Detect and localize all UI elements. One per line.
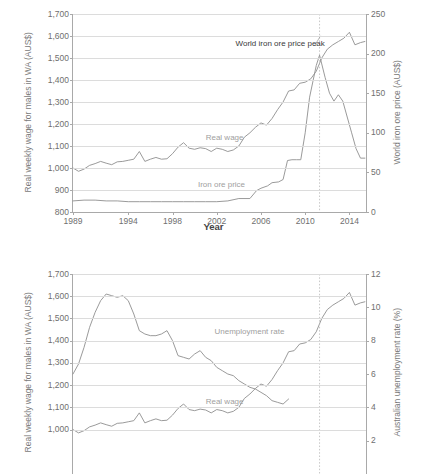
y-tickmark bbox=[70, 168, 73, 169]
y-tickmark bbox=[70, 124, 73, 125]
gridline bbox=[73, 274, 366, 275]
gridline bbox=[73, 363, 366, 364]
series-label-iron-ore-price: Iron ore price bbox=[198, 181, 245, 189]
y-tickmark bbox=[70, 296, 73, 297]
y-tickmark bbox=[70, 190, 73, 191]
y-tick-label: 1,300 bbox=[48, 358, 69, 367]
y2-tick-label: 2 bbox=[371, 436, 376, 445]
gridline bbox=[73, 341, 366, 342]
gridline bbox=[73, 146, 366, 147]
y-tickmark bbox=[70, 274, 73, 275]
y2-tickmark bbox=[366, 274, 369, 275]
y-tickmark bbox=[70, 102, 73, 103]
y-tick-label: 1,400 bbox=[48, 336, 69, 345]
y-tickmark bbox=[70, 146, 73, 147]
gridline bbox=[73, 36, 366, 37]
gridline bbox=[73, 102, 366, 103]
gridline bbox=[73, 80, 366, 81]
y-tick-label: 1,700 bbox=[48, 270, 69, 279]
y-tickmark bbox=[70, 36, 73, 37]
y-tick-label: 1,500 bbox=[48, 54, 69, 63]
y2-tick-label: 250 bbox=[371, 10, 385, 19]
gridline bbox=[73, 168, 366, 169]
y2-tick-label: 0 bbox=[371, 208, 376, 217]
x-tickmark bbox=[173, 212, 174, 215]
gridline bbox=[73, 124, 366, 125]
y-tick-label: 1,600 bbox=[48, 32, 69, 41]
x-tickmark bbox=[349, 212, 350, 215]
y-tickmark bbox=[70, 385, 73, 386]
x-axis-title: Year bbox=[0, 222, 427, 232]
y-tick-label: 1,100 bbox=[48, 142, 69, 151]
y2-tickmark bbox=[366, 133, 369, 134]
y-tick-label: 1,600 bbox=[48, 292, 69, 301]
chart-panel-bottom: Real weekly wage for males in WA (AUS$) … bbox=[0, 248, 427, 456]
y2-tick-label: 6 bbox=[371, 370, 376, 379]
gridline bbox=[73, 14, 366, 15]
y2-tickmark bbox=[366, 212, 369, 213]
series-label-unemployment-rate: Unemployment rate bbox=[215, 328, 285, 336]
y-tick-label: 1,200 bbox=[48, 120, 69, 129]
y-tickmark bbox=[70, 80, 73, 81]
gridline bbox=[73, 385, 366, 386]
y2-tick-label: 4 bbox=[371, 403, 376, 412]
y-tickmark bbox=[70, 58, 73, 59]
y2-tickmark bbox=[366, 54, 369, 55]
x-tickmark bbox=[73, 212, 74, 215]
y2-tick-label: 10 bbox=[371, 303, 380, 312]
y2-tick-label: 150 bbox=[371, 89, 385, 98]
y2-tick-label: 100 bbox=[371, 128, 385, 137]
y2-tick-label: 12 bbox=[371, 270, 380, 279]
gridline bbox=[73, 430, 366, 431]
y2-tickmark bbox=[366, 407, 369, 408]
y-tickmark bbox=[70, 407, 73, 408]
series-lines-bottom bbox=[73, 274, 368, 474]
y-tick-label: 1,400 bbox=[48, 76, 69, 85]
y-tick-label: 1,700 bbox=[48, 10, 69, 19]
y-tick-label: 1,000 bbox=[48, 425, 69, 434]
x-tickmark bbox=[305, 212, 306, 215]
gridline bbox=[73, 407, 366, 408]
gridline bbox=[73, 58, 366, 59]
y-tickmark bbox=[70, 430, 73, 431]
y-tickmark bbox=[70, 363, 73, 364]
gridline bbox=[73, 190, 366, 191]
y2-tickmark bbox=[366, 307, 369, 308]
y2-tickmark bbox=[366, 172, 369, 173]
y-tickmark bbox=[70, 341, 73, 342]
y2-tickmark bbox=[366, 341, 369, 342]
y-tick-label: 1,100 bbox=[48, 403, 69, 412]
y-tickmark bbox=[70, 14, 73, 15]
y-tick-label: 1,200 bbox=[48, 381, 69, 390]
x-tickmark bbox=[261, 212, 262, 215]
series-label-real-wage: Real wage bbox=[206, 398, 244, 406]
gridline bbox=[73, 318, 366, 319]
y2-axis-title-bottom: Australian unemployment rate (%) bbox=[393, 272, 402, 472]
y2-tickmark bbox=[366, 93, 369, 94]
chart-panel-top: Real weekly wage for males in WA (AUS$) … bbox=[0, 0, 427, 232]
y2-axis-title-top: World iron ore price (AUS$) bbox=[393, 12, 402, 211]
y-axis-title-bottom: Real weekly wage for males in WA (AUS$) bbox=[24, 272, 33, 472]
y-tick-label: 1,300 bbox=[48, 98, 69, 107]
y-tick-label: 1,500 bbox=[48, 314, 69, 323]
y2-tick-label: 8 bbox=[371, 336, 376, 345]
series-label-real-wage: Real wage bbox=[206, 134, 244, 142]
plot-area-bottom: 1,0001,1001,2001,3001,4001,5001,6001,700… bbox=[72, 274, 367, 474]
plot-area-top: 8009001,0001,1001,2001,3001,4001,5001,60… bbox=[72, 14, 367, 213]
y-tick-label: 1,000 bbox=[48, 164, 69, 173]
annotation-label: World iron ore price peak bbox=[236, 40, 325, 48]
y-tickmark bbox=[70, 318, 73, 319]
x-tickmark bbox=[217, 212, 218, 215]
y2-tickmark bbox=[366, 441, 369, 442]
y2-tickmark bbox=[366, 14, 369, 15]
y-tick-label: 900 bbox=[55, 186, 69, 195]
y-axis-title-top: Real weekly wage for males in WA (AUS$) bbox=[24, 12, 33, 211]
x-tickmark bbox=[128, 212, 129, 215]
y2-tick-label: 200 bbox=[371, 49, 385, 58]
y2-tickmark bbox=[366, 374, 369, 375]
gridline bbox=[73, 296, 366, 297]
y-tick-label: 800 bbox=[55, 208, 69, 217]
y2-tick-label: 50 bbox=[371, 168, 380, 177]
